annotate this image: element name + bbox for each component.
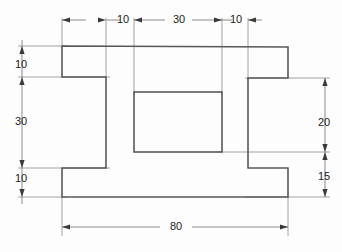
technical-drawing-canvas: 10 30 10 10 30 — [0, 0, 342, 252]
arrow-up-icon — [322, 189, 327, 197]
right-dimension-group: 20 15 — [318, 78, 330, 197]
arrow-down-icon — [322, 78, 327, 86]
part-outline-path — [62, 46, 288, 197]
dim-left-10-bottom: 10 — [15, 172, 27, 184]
dim-top-30: 30 — [173, 13, 185, 25]
arrow-left-icon — [62, 17, 70, 22]
dim-top-10-left: 10 — [117, 13, 129, 25]
dim-left-10-top: 10 — [15, 58, 27, 70]
arrow-up-icon — [19, 160, 24, 168]
arrow-up-icon — [19, 189, 24, 197]
arrow-left-icon — [62, 224, 70, 229]
arrow-down-icon — [322, 152, 327, 160]
arrow-right-icon — [280, 224, 288, 229]
dim-right-15: 15 — [318, 170, 330, 182]
dim-left-30: 30 — [15, 115, 27, 127]
arrow-up-icon — [322, 144, 327, 152]
dim-right-20: 20 — [318, 116, 330, 128]
dim-bottom-80: 80 — [170, 220, 182, 232]
extension-lines — [18, 18, 330, 236]
bottom-dimension-group: 80 — [62, 220, 288, 232]
arrow-right-icon — [214, 17, 222, 22]
arrow-left-icon — [134, 17, 142, 22]
arrow-down-icon — [19, 46, 24, 54]
inner-pocket-rect — [134, 92, 222, 152]
drawing-svg: 10 30 10 10 30 — [0, 0, 342, 252]
dim-top-10-right: 10 — [230, 13, 242, 25]
arrow-right-icon — [98, 17, 106, 22]
left-dimension-group: 10 30 10 — [15, 40, 27, 204]
arrow-down-icon — [19, 77, 24, 85]
top-dimension-group: 10 30 10 — [62, 13, 262, 25]
arrow-right-icon — [248, 17, 256, 22]
